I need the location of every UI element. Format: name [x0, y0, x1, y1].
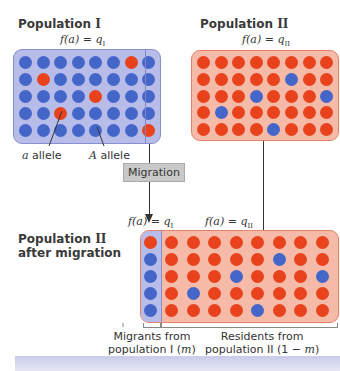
- a-allele-dot: [316, 287, 329, 300]
- a-allele-dot: [294, 236, 307, 249]
- a-allele-dot: [251, 253, 264, 266]
- a-allele-dot: [251, 236, 264, 249]
- migrants-brace: [143, 323, 161, 328]
- residents-caption-line2: population II (1 −: [205, 343, 305, 356]
- a-allele-dot: [208, 287, 221, 300]
- a-allele-dot: [165, 304, 178, 317]
- A-allele-dot: [230, 270, 243, 283]
- after-migration-roman: II: [95, 232, 106, 246]
- A-allele-dot: [144, 270, 157, 283]
- a-allele-dot: [294, 304, 307, 317]
- A-allele-label: A allele: [89, 149, 130, 162]
- a-allele-dot: [230, 236, 243, 249]
- migrants-caption-line1: Migrants from: [108, 330, 196, 343]
- A-allele-letter: A: [89, 149, 97, 162]
- A-allele-dot: [187, 287, 200, 300]
- A-allele-text: allele: [100, 149, 129, 162]
- residents-caption-end: ): [315, 343, 319, 356]
- residents-caption: Residents from population II (1 − m): [205, 330, 319, 356]
- a-allele-dot: [165, 270, 178, 283]
- a-allele-dot: [273, 304, 286, 317]
- a-allele-dot: [208, 304, 221, 317]
- a-allele-dot: [294, 287, 307, 300]
- a-allele-dot: [187, 270, 200, 283]
- equation-text: f(a) = q: [128, 215, 170, 228]
- equation-subscript: II: [247, 222, 253, 230]
- a-allele-dot: [251, 270, 264, 283]
- a-allele-dot: [187, 236, 200, 249]
- A-allele-dot: [144, 253, 157, 266]
- A-allele-dot: [144, 287, 157, 300]
- A-allele-dot: [273, 253, 286, 266]
- migrants-caption-line2: population I (: [108, 343, 181, 356]
- equation-subscript: I: [170, 222, 173, 230]
- a-allele-dot: [294, 253, 307, 266]
- A-allele-dot: [251, 304, 264, 317]
- a-allele-dot: [208, 236, 221, 249]
- a-allele-dot: [251, 287, 264, 300]
- a-allele-dot: [208, 253, 221, 266]
- a-allele-dot: [273, 236, 286, 249]
- a-allele-dot: [165, 287, 178, 300]
- after-migration-title-line1: Population: [18, 232, 95, 246]
- a-allele-dot: [316, 304, 329, 317]
- a-allele-dot: [144, 236, 157, 249]
- a-allele-dot: [165, 253, 178, 266]
- a-allele-letter: a: [22, 149, 29, 162]
- a-allele-dot: [273, 270, 286, 283]
- a-allele-text: allele: [32, 149, 61, 162]
- after-migration-title-line2: after migration: [18, 246, 121, 260]
- after-migration-title: Population II after migration: [18, 232, 121, 260]
- a-allele-dot: [187, 304, 200, 317]
- a-allele-dot: [230, 287, 243, 300]
- residents-caption-var: m: [305, 343, 315, 356]
- after-migration-box: [140, 230, 339, 323]
- residents-brace: [161, 323, 338, 328]
- migrants-caption-end: ): [192, 343, 196, 356]
- a-allele-label: a allele: [22, 149, 62, 162]
- a-allele-dot: [316, 236, 329, 249]
- migrants-equation: f(a) = qI: [128, 215, 173, 230]
- a-allele-dot: [208, 270, 221, 283]
- a-allele-dot: [294, 270, 307, 283]
- a-allele-dot: [230, 304, 243, 317]
- migrants-caption: Migrants from population I (m): [108, 330, 196, 356]
- a-allele-dot: [187, 253, 200, 266]
- A-allele-dot: [316, 270, 329, 283]
- bottom-bar: [15, 356, 340, 371]
- migration-label: Migration: [123, 163, 185, 182]
- equation-text: f(a) = q: [205, 215, 247, 228]
- a-allele-dot: [230, 253, 243, 266]
- a-allele-dot: [165, 236, 178, 249]
- residents-equation: f(a) = qII: [205, 215, 253, 230]
- migrants-caption-var: m: [181, 343, 191, 356]
- A-allele-dot: [144, 304, 157, 317]
- a-allele-dot: [273, 287, 286, 300]
- residents-caption-line1: Residents from: [205, 330, 319, 343]
- a-allele-dot: [316, 253, 329, 266]
- population-2-arrow-line: [263, 141, 264, 240]
